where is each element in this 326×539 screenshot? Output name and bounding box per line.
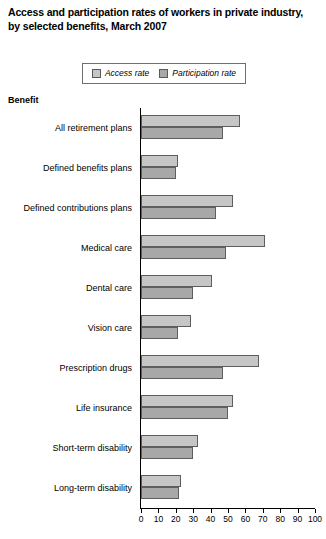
bar-group xyxy=(141,428,315,468)
legend-swatch-access-rate xyxy=(92,69,101,78)
category-label: Life insurance xyxy=(76,403,132,413)
x-axis-tick-label: 100 xyxy=(304,514,326,524)
category-label-row: Short-term disability xyxy=(52,428,132,468)
legend-swatch-participation-rate xyxy=(159,69,168,78)
bar-group xyxy=(141,388,315,428)
category-label: Defined benefits plans xyxy=(43,163,132,173)
category-label: Defined contributions plans xyxy=(23,203,132,213)
category-label: Short-term disability xyxy=(52,443,132,453)
bar-access-rate xyxy=(141,115,240,127)
category-label: Vision care xyxy=(88,323,132,333)
category-label-row: Medical care xyxy=(81,228,132,268)
category-label-row: Vision care xyxy=(88,308,132,348)
category-label-row: Prescription drugs xyxy=(59,348,132,388)
bar-access-rate xyxy=(141,435,198,447)
category-label-row: Defined benefits plans xyxy=(43,148,132,188)
x-axis-tick-mark xyxy=(263,509,264,513)
bar-access-rate xyxy=(141,475,181,487)
legend-item-participation-rate: Participation rate xyxy=(159,69,236,78)
bar-group xyxy=(141,308,315,348)
x-axis-tick-mark xyxy=(211,509,212,513)
category-label-row: Long-term disability xyxy=(54,468,132,508)
bar-participation-rate xyxy=(141,207,216,219)
bar-access-rate xyxy=(141,235,265,247)
x-axis-tick-mark xyxy=(315,509,316,513)
bar-participation-rate xyxy=(141,407,228,419)
category-label: All retirement plans xyxy=(55,123,132,133)
bar-group xyxy=(141,188,315,228)
x-axis-tick-mark xyxy=(193,509,194,513)
bar-participation-rate xyxy=(141,447,193,459)
bar-participation-rate xyxy=(141,487,179,499)
bar-group xyxy=(141,468,315,508)
x-axis-tick-mark xyxy=(298,509,299,513)
category-label: Medical care xyxy=(81,243,132,253)
chart-title: Access and participation rates of worker… xyxy=(8,6,316,33)
bar-access-rate xyxy=(141,315,191,327)
bar-access-rate xyxy=(141,355,259,367)
category-label: Prescription drugs xyxy=(59,363,132,373)
x-axis-tick-mark xyxy=(228,509,229,513)
category-label: Long-term disability xyxy=(54,483,132,493)
bar-group xyxy=(141,108,315,148)
category-label-row: Dental care xyxy=(86,268,132,308)
legend-label-participation-rate: Participation rate xyxy=(172,69,236,78)
bar-group xyxy=(141,348,315,388)
x-axis-tick-mark xyxy=(176,509,177,513)
bar-group xyxy=(141,148,315,188)
category-label-row: Defined contributions plans xyxy=(23,188,132,228)
bar-participation-rate xyxy=(141,287,193,299)
category-label: Dental care xyxy=(86,283,132,293)
x-axis-tick-mark xyxy=(280,509,281,513)
legend-item-access-rate: Access rate xyxy=(92,69,149,78)
bar-access-rate xyxy=(141,395,233,407)
bar-access-rate xyxy=(141,275,212,287)
bar-group xyxy=(141,228,315,268)
category-label-row: Life insurance xyxy=(76,388,132,428)
bar-participation-rate xyxy=(141,327,178,339)
bars-container xyxy=(141,108,315,508)
bar-participation-rate xyxy=(141,367,223,379)
bar-participation-rate xyxy=(141,167,176,179)
legend-label-access-rate: Access rate xyxy=(105,69,149,78)
x-axis-tick-mark xyxy=(245,509,246,513)
category-label-row: All retirement plans xyxy=(55,108,132,148)
bar-participation-rate xyxy=(141,247,226,259)
chart-plot-area: All retirement plansDefined benefits pla… xyxy=(0,108,322,539)
x-axis-tick-mark xyxy=(141,509,142,513)
bar-access-rate xyxy=(141,195,233,207)
bar-participation-rate xyxy=(141,127,223,139)
category-axis-labels: All retirement plansDefined benefits pla… xyxy=(0,108,137,508)
axis-header-benefit: Benefit xyxy=(8,95,39,106)
x-axis-tick-mark xyxy=(158,509,159,513)
bar-access-rate xyxy=(141,155,178,167)
chart-title-line-1: Access and participation rates of worker… xyxy=(8,6,316,20)
chart-legend: Access rate Participation rate xyxy=(82,63,246,84)
bar-group xyxy=(141,268,315,308)
chart-title-line-2: by selected benefits, March 2007 xyxy=(8,20,316,34)
